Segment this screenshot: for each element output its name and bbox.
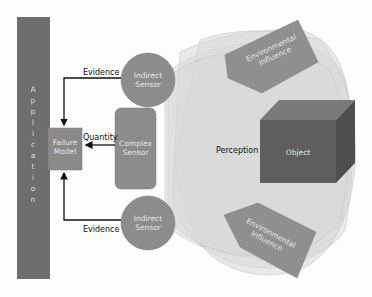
app-letter: i	[32, 130, 34, 138]
evidence-bottom-arrow	[64, 173, 121, 220]
indirect-sensor-top-label: Indirect Sensor	[126, 71, 170, 89]
indirect-sensor-bottom-line1: Indirect	[126, 214, 170, 223]
application-label: A p p l i c a t i o n	[17, 86, 49, 204]
indirect-sensor-top-line2: Sensor	[126, 80, 170, 89]
app-letter: l	[32, 119, 34, 127]
failure-model-line1: Failure	[48, 138, 82, 147]
failure-model-line2: Model	[48, 147, 82, 156]
app-letter: t	[32, 163, 35, 171]
evidence-top-label: Evidence	[83, 69, 119, 77]
app-letter: p	[31, 97, 36, 105]
object-label: Object	[260, 148, 336, 157]
quantity-label: Quantity	[83, 134, 118, 142]
complex-sensor-line1: Complex	[113, 139, 158, 148]
complex-sensor-label: Complex Sensor	[113, 139, 158, 157]
app-letter: o	[31, 185, 36, 193]
perception-label: Perception	[216, 147, 258, 155]
evidence-top-arrow	[64, 78, 121, 125]
indirect-sensor-bottom-line2: Sensor	[126, 223, 170, 232]
evidence-bottom-label: Evidence	[83, 226, 119, 234]
indirect-sensor-bottom-label: Indirect Sensor	[126, 214, 170, 232]
app-letter: a	[31, 152, 36, 160]
app-letter: i	[32, 174, 34, 182]
app-letter: p	[31, 108, 36, 116]
object-cube	[260, 100, 355, 183]
failure-model-label: Failure Model	[48, 138, 82, 156]
indirect-sensor-top-line1: Indirect	[126, 71, 170, 80]
app-letter: n	[31, 196, 36, 204]
app-letter: c	[31, 141, 35, 149]
complex-sensor-line2: Sensor	[113, 148, 158, 157]
app-letter: A	[30, 86, 35, 94]
diagram-canvas: A p p l i c a t i o n Failure Model Comp…	[0, 0, 372, 297]
